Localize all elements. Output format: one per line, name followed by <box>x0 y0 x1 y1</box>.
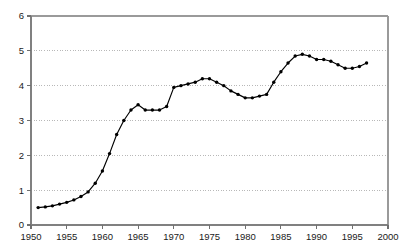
data-point <box>172 86 175 89</box>
x-tick-label-1985: 1985 <box>270 231 291 242</box>
data-point <box>251 96 254 99</box>
data-point <box>158 108 161 111</box>
data-point <box>115 133 118 136</box>
line-chart: 0123456 19501955196019651970197519801985… <box>0 0 413 251</box>
data-point <box>151 108 154 111</box>
data-point <box>65 201 68 204</box>
x-tick-label-1990: 1990 <box>306 231 327 242</box>
data-point <box>258 94 261 97</box>
data-point <box>308 54 311 57</box>
data-point <box>272 80 275 83</box>
data-point <box>208 77 211 80</box>
y-tick-label-1: 1 <box>19 185 24 196</box>
data-point <box>343 67 346 70</box>
data-point <box>301 53 304 56</box>
data-point <box>236 93 239 96</box>
data-point <box>244 96 247 99</box>
x-tick-label-1975: 1975 <box>199 231 220 242</box>
data-point <box>165 105 168 108</box>
chart-container: 0123456 19501955196019651970197519801985… <box>0 0 413 251</box>
y-tick-label-6: 6 <box>19 10 24 21</box>
x-tick-label-2000: 2000 <box>377 231 398 242</box>
gridlines-group <box>31 51 388 190</box>
data-series-group <box>36 53 368 210</box>
x-tick-label-1965: 1965 <box>128 231 149 242</box>
data-point <box>322 58 325 61</box>
data-point <box>329 60 332 63</box>
data-point <box>51 204 54 207</box>
x-tick-label-1995: 1995 <box>342 231 363 242</box>
y-tick-label-4: 4 <box>19 80 24 91</box>
data-point <box>265 93 268 96</box>
x-tick-label-1950: 1950 <box>20 231 41 242</box>
series-markers <box>36 53 368 210</box>
data-point <box>186 82 189 85</box>
data-point <box>101 169 104 172</box>
x-tick-label-1960: 1960 <box>92 231 113 242</box>
data-point <box>201 77 204 80</box>
data-point <box>36 206 39 209</box>
data-point <box>365 61 368 64</box>
data-point <box>136 103 139 106</box>
data-point <box>286 61 289 64</box>
data-point <box>194 80 197 83</box>
data-point <box>108 152 111 155</box>
y-tick-label-2: 2 <box>19 150 24 161</box>
data-point <box>293 54 296 57</box>
data-point <box>179 84 182 87</box>
y-tick-label-0: 0 <box>19 219 24 230</box>
data-point <box>72 198 75 201</box>
data-point <box>129 108 132 111</box>
data-point <box>315 58 318 61</box>
y-tick-label-3: 3 <box>19 115 24 126</box>
data-point <box>215 80 218 83</box>
data-point <box>79 195 82 198</box>
data-point <box>94 182 97 185</box>
x-tick-label-1980: 1980 <box>235 231 256 242</box>
data-point <box>336 63 339 66</box>
y-tick-group: 0123456 <box>19 10 31 230</box>
data-point <box>222 84 225 87</box>
x-tick-label-1970: 1970 <box>163 231 184 242</box>
data-point <box>351 67 354 70</box>
data-point <box>358 65 361 68</box>
data-point <box>44 205 47 208</box>
data-point <box>122 119 125 122</box>
data-point <box>58 202 61 205</box>
data-point <box>279 70 282 73</box>
data-point <box>229 89 232 92</box>
data-point <box>144 108 147 111</box>
x-tick-group: 1950195519601965197019751980198519901995… <box>20 225 398 242</box>
x-tick-label-1955: 1955 <box>56 231 77 242</box>
y-tick-label-5: 5 <box>19 45 24 56</box>
data-point <box>86 190 89 193</box>
